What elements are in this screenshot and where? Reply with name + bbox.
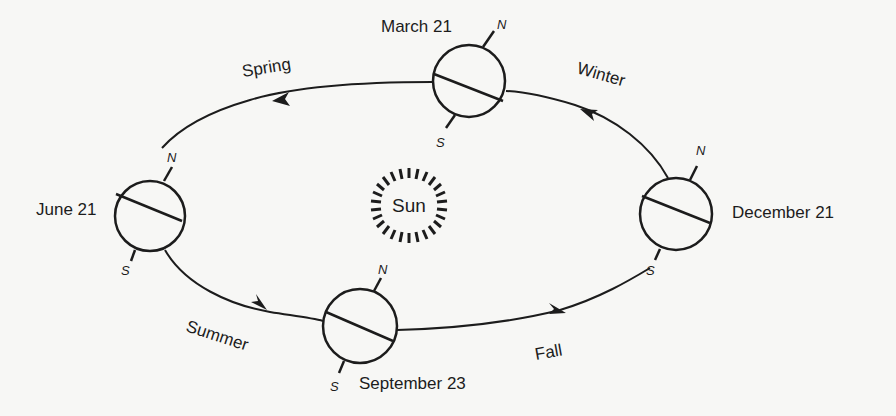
orbit-diagram: Sun N S March 21 N S June 21 N S Septemb… [0,0,896,416]
south-label: S [646,263,655,278]
equator-line [116,194,182,221]
south-label: S [121,263,130,278]
south-axis-line [131,250,135,261]
equator-line [642,196,710,223]
season-label-fall: Fall [533,340,563,363]
orbit-arc-spring [162,82,432,148]
season-label-spring: Spring [241,54,293,80]
earth-globe-icon [433,45,505,117]
north-label: N [696,143,706,158]
orbit-arc-fall [397,268,650,330]
date-label-september: September 23 [359,374,466,393]
orbit-arc-winter [506,91,668,178]
south-axis-line [655,249,660,260]
arrow-winter-icon [580,109,598,121]
orbit-arc-summer [165,250,323,321]
sun: Sun [371,168,447,243]
north-label: N [497,17,507,32]
north-label: N [167,150,177,165]
south-label: S [330,379,339,394]
south-axis-line [339,361,344,373]
date-label-june: June 21 [36,200,97,219]
earth-december-21: N S December 21 [640,143,834,278]
season-label-summer: Summer [184,317,251,355]
earth-june-21: N S June 21 [36,150,185,278]
season-label-winter: Winter [575,59,628,91]
equator-line [326,312,393,341]
earth-globe-icon [640,178,712,250]
date-label-december: December 21 [732,203,834,222]
earth-globe-icon [115,181,185,251]
south-label: S [436,135,445,150]
north-axis-line [483,31,494,47]
earth-march-21: N S March 21 [381,17,507,150]
south-axis-line [446,115,455,128]
equator-line [434,74,503,101]
north-axis-line [690,166,697,180]
sun-label: Sun [392,195,426,216]
north-axis-line [164,167,172,181]
north-label: N [378,262,388,277]
date-label-march: March 21 [381,17,452,36]
north-axis-line [374,278,381,291]
